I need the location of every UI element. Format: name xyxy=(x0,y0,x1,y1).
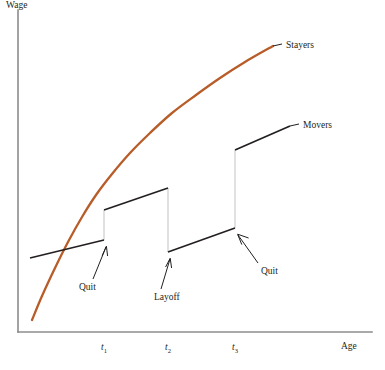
xtick-label-t1: t1 xyxy=(101,342,107,354)
movers-leader-line xyxy=(290,124,299,126)
movers-segment-3 xyxy=(168,228,235,252)
y-axis-title: Wage xyxy=(6,0,27,10)
stayers-leader-line xyxy=(273,44,282,46)
stayers-series-group xyxy=(32,46,273,320)
stayers-curve-path xyxy=(32,46,273,320)
xtick-t1-sub: 1 xyxy=(104,347,107,354)
movers-series-label: Movers xyxy=(303,120,332,130)
chart-text-group: Wage Age Stayers Movers Quit Layoff Quit… xyxy=(6,0,357,354)
event-arrow-group xyxy=(93,234,258,289)
xtick-label-t2: t2 xyxy=(165,342,171,354)
layoff-label: Layoff xyxy=(154,292,181,302)
movers-discontinuity-group xyxy=(104,150,235,252)
series-leader-group xyxy=(273,44,299,126)
x-axis-title: Age xyxy=(341,341,357,351)
xtick-t3-sub: 3 xyxy=(235,347,239,354)
layoff-arrow-shaft xyxy=(161,259,170,289)
quit-2-label: Quit xyxy=(261,266,278,276)
movers-segment-4 xyxy=(235,126,290,150)
quit-1-arrow-head xyxy=(102,246,107,256)
quit-2-arrow-head xyxy=(238,234,249,244)
quit-1-label: Quit xyxy=(79,282,96,292)
xtick-label-t3: t3 xyxy=(232,342,239,354)
chart-canvas: Wage Age Stayers Movers Quit Layoff Quit… xyxy=(0,0,385,370)
quit-2-arrow-shaft xyxy=(238,235,258,263)
stayers-series-label: Stayers xyxy=(286,40,314,50)
wage-age-chart-figure: Wage Age Stayers Movers Quit Layoff Quit… xyxy=(0,0,385,370)
axes-group xyxy=(18,10,372,332)
xtick-t2-sub: 2 xyxy=(168,347,171,354)
movers-segment-2 xyxy=(104,188,168,210)
